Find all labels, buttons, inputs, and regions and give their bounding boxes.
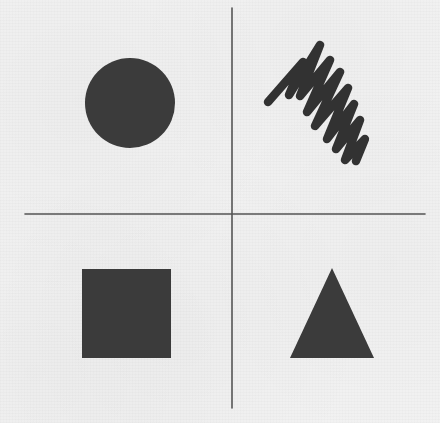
quadrant-top-left [85,58,175,148]
circle-shape [85,58,175,148]
figure-canvas [0,0,440,423]
scribble-shape [268,45,365,161]
quadrant-top-right [268,45,365,161]
quadrant-bottom-right [290,268,374,358]
quadrant-bottom-left [82,269,171,358]
triangle-shape [290,268,374,358]
shapes-figure [0,0,440,423]
square-shape [82,269,171,358]
